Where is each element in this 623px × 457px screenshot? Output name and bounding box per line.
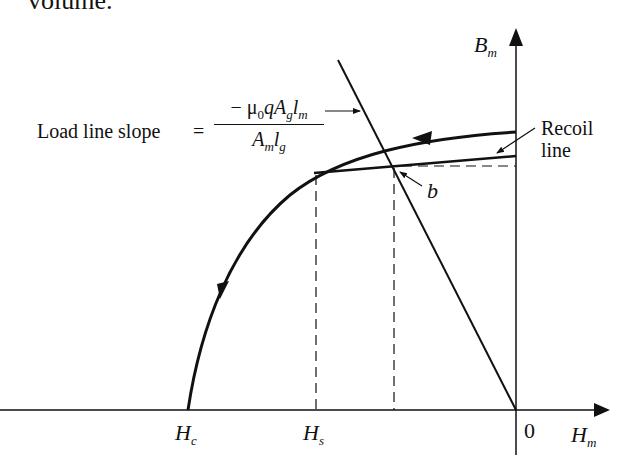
origin-label: 0 xyxy=(524,420,535,442)
b-pointer xyxy=(400,172,422,186)
dashed-guides xyxy=(316,166,516,410)
b-axis-arrow-icon xyxy=(509,28,523,46)
slope-fraction: − μ0qAglm Amlg xyxy=(214,97,324,153)
operating-point-b-label: b xyxy=(427,180,438,202)
demagnetization-curve xyxy=(188,131,516,410)
h-axis xyxy=(0,403,610,417)
load-line xyxy=(338,60,516,410)
hs-tick-label: Hs xyxy=(303,422,324,447)
h-axis-arrow-icon xyxy=(594,403,610,417)
equals-sign: = xyxy=(193,121,204,141)
hc-tick-label: Hc xyxy=(175,422,197,447)
load-line-slope-label: Load line slope xyxy=(37,121,160,141)
slope-denominator: Amlg xyxy=(214,129,324,153)
slope-numerator: − μ0qAglm xyxy=(214,97,324,121)
recoil-label-line2: line xyxy=(541,140,571,160)
b-axis xyxy=(509,28,523,455)
b-axis-label: Bm xyxy=(474,34,497,59)
h-axis-label: Hm xyxy=(571,424,596,449)
fraction-bar xyxy=(214,124,324,125)
bh-diagram xyxy=(0,0,623,457)
recoil-label-line1: Recoil xyxy=(541,118,593,138)
